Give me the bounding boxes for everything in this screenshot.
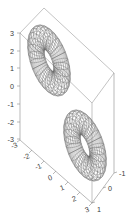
z-axis-ticks: 3 2 1 0 -1 -2 -3 (8, 29, 20, 144)
x-tick-label-0: 0 (47, 173, 54, 183)
z-tick-label-2: 2 (10, 47, 14, 56)
x-axis-ticks: -3 -2 -1 0 1 2 3 (10, 140, 92, 215)
y-tick-label-neg1: -1 (119, 169, 125, 178)
z-tick-label-neg2: -2 (8, 118, 14, 127)
plot-figure: 3 2 1 0 -1 -2 -3 -3 -2 -1 0 1 2 3 (0, 0, 132, 222)
y-tick-label-0: 0 (108, 184, 112, 193)
y-tick-mark (114, 172, 117, 173)
x-tick-label-3: 3 (84, 205, 91, 215)
x-tick-mark (17, 140, 20, 142)
x-tick-mark (65, 182, 68, 185)
z-tick-label-0: 0 (10, 82, 14, 91)
z-tick-label-neg1: -1 (8, 100, 14, 109)
x-tick-label-neg1: -1 (34, 161, 43, 172)
y-axis-ticks: -1 0 1 (92, 169, 125, 214)
x-tick-mark (41, 161, 44, 164)
x-tick-mark (89, 203, 92, 206)
x-tick-mark (77, 192, 80, 195)
x-tick-label-1: 1 (59, 183, 66, 193)
x-tick-mark (53, 171, 56, 174)
x-tick-mark (29, 150, 32, 153)
z-tick-label-1: 1 (10, 64, 14, 73)
y-tick-label-1: 1 (97, 205, 101, 214)
z-tick-label-3: 3 (10, 29, 14, 38)
x-tick-label-2: 2 (71, 194, 78, 204)
box-edge-right-upper (92, 73, 114, 103)
mesh-surface-wireframe (28, 25, 107, 181)
plot-canvas: 3 2 1 0 -1 -2 -3 -3 -2 -1 0 1 2 3 (0, 0, 132, 222)
